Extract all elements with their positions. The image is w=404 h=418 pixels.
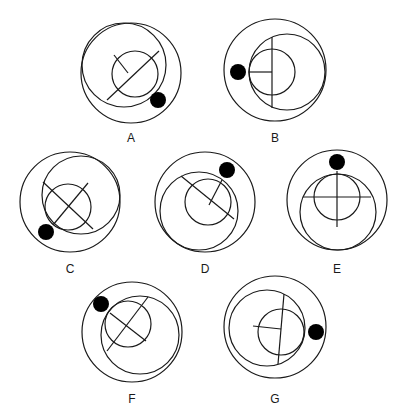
outer-circle: [81, 23, 181, 123]
line-segment: [107, 51, 159, 100]
figure-a: A: [81, 23, 181, 145]
middle-circle: [42, 156, 120, 234]
figure-d: D: [155, 152, 255, 276]
figure-label: G: [270, 392, 279, 406]
figure-b: B: [224, 19, 326, 145]
black-dot: [219, 162, 235, 178]
middle-circle: [300, 174, 376, 250]
inner-circle: [185, 179, 231, 225]
line-segment: [209, 180, 222, 205]
figure-label: F: [128, 392, 135, 406]
figure-label: C: [66, 262, 75, 276]
middle-circle: [160, 172, 238, 250]
line-segment: [253, 326, 281, 329]
figure-label: E: [333, 262, 341, 276]
figure-f: F: [82, 282, 182, 406]
figure-e: E: [287, 150, 387, 276]
figure-label: B: [271, 131, 279, 145]
figure-g: G: [224, 276, 326, 406]
line-segment: [110, 313, 146, 341]
black-dot: [93, 296, 109, 312]
black-dot: [230, 64, 246, 80]
figure-c: C: [20, 152, 120, 276]
black-dot: [38, 224, 54, 240]
outer-circle: [20, 152, 120, 252]
puzzle-diagram: ABCDEFG: [0, 0, 404, 418]
black-dot: [329, 154, 345, 170]
figure-label: D: [201, 262, 210, 276]
figure-label: A: [127, 131, 135, 145]
black-dot: [308, 324, 324, 340]
line-segment: [114, 55, 128, 73]
black-dot: [150, 92, 166, 108]
